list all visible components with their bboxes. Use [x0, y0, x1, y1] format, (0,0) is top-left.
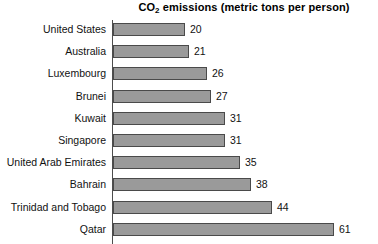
bar-row: Trinidad and Tobago44 — [0, 198, 378, 220]
bar-value-label: 21 — [194, 45, 206, 58]
bar-row: Bahrain38 — [0, 175, 378, 197]
category-label: Qatar — [0, 223, 106, 236]
bar — [113, 23, 185, 36]
bar-track: 44 — [113, 201, 334, 214]
bar-value-label: 35 — [245, 156, 257, 169]
bar — [113, 178, 251, 191]
bar — [113, 90, 211, 103]
bar-value-label: 31 — [230, 112, 242, 125]
category-label: Brunei — [0, 90, 106, 103]
bar-row: Brunei27 — [0, 87, 378, 109]
category-label: Australia — [0, 45, 106, 58]
bar-track: 31 — [113, 134, 334, 147]
chart-title: CO2 emissions (metric tons per person) — [110, 1, 378, 13]
bar-track: 27 — [113, 90, 334, 103]
bar-track: 20 — [113, 23, 334, 36]
chart-title-prefix: CO — [138, 1, 155, 13]
bar-value-label: 27 — [216, 90, 228, 103]
bar-row: United States20 — [0, 20, 378, 42]
bar-value-label: 44 — [277, 201, 289, 214]
bar-value-label: 26 — [212, 67, 224, 80]
category-label: Bahrain — [0, 178, 106, 191]
bar-track: 26 — [113, 67, 334, 80]
bar-value-label: 38 — [256, 178, 268, 191]
plot-area: United States20Australia21Luxembourg26Br… — [0, 20, 378, 244]
bar — [113, 45, 189, 58]
bar — [113, 112, 225, 125]
chart-title-subscript: 2 — [155, 6, 160, 15]
bar-track: 61 — [113, 223, 334, 236]
bar — [113, 67, 207, 80]
category-label: United Arab Emirates — [0, 156, 106, 169]
bar-value-label: 20 — [190, 23, 202, 36]
category-label: United States — [0, 23, 106, 36]
category-label: Singapore — [0, 134, 106, 147]
category-label: Luxembourg — [0, 67, 106, 80]
bar-row: Luxembourg26 — [0, 64, 378, 86]
bar-track: 38 — [113, 178, 334, 191]
bar-row: United Arab Emirates35 — [0, 153, 378, 175]
bar — [113, 156, 240, 169]
bar-track: 31 — [113, 112, 334, 125]
bar-row: Kuwait31 — [0, 109, 378, 131]
category-label: Trinidad and Tobago — [0, 201, 106, 214]
chart-title-suffix: emissions (metric tons per person) — [160, 1, 350, 13]
bar-track: 21 — [113, 45, 334, 58]
bar-row: Qatar61 — [0, 220, 378, 242]
bar — [113, 223, 334, 236]
bar-value-label: 31 — [230, 134, 242, 147]
bar — [113, 134, 225, 147]
category-label: Kuwait — [0, 112, 106, 125]
bar — [113, 201, 272, 214]
bar-value-label: 61 — [339, 223, 351, 236]
bar-row: Australia21 — [0, 42, 378, 64]
bar-chart: CO2 emissions (metric tons per person) U… — [0, 0, 378, 244]
bar-track: 35 — [113, 156, 334, 169]
bar-row: Singapore31 — [0, 131, 378, 153]
